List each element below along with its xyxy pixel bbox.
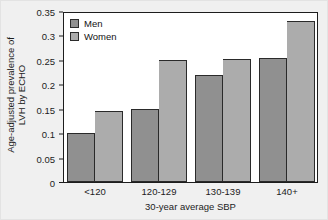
x-axis-title: 30-year average SBP: [63, 201, 318, 212]
y-tick-label: 0.15: [37, 104, 56, 115]
x-tick-label: 120-129: [130, 186, 188, 200]
plot-area: Men Women: [63, 12, 318, 183]
bar-women[interactable]: [159, 60, 187, 182]
bar-women[interactable]: [287, 21, 315, 182]
y-tick-label: 0.05: [37, 153, 56, 164]
y-axis-title-line-2: LVH by ECHO: [16, 37, 27, 153]
bar-women[interactable]: [95, 111, 123, 182]
x-tick-label: 130-139: [194, 186, 252, 200]
y-tick-label: 0.3: [42, 31, 55, 42]
bar-men[interactable]: [259, 58, 287, 182]
y-tick-label: 0.2: [42, 80, 55, 91]
y-axis-tick-labels: 00.050.10.150.20.250.30.35: [27, 12, 59, 183]
bar-men[interactable]: [131, 109, 159, 182]
y-tick-label: 0.25: [37, 55, 56, 66]
y-tick-label: 0.35: [37, 7, 56, 18]
bar-men[interactable]: [195, 75, 223, 182]
bar-series-container: [64, 13, 317, 182]
bar-group: [131, 13, 187, 182]
x-tick-label: <120: [66, 186, 124, 200]
bar-chart-figure: Age-adjusted prevalence of LVH by ECHO 0…: [0, 0, 328, 220]
bar-men[interactable]: [67, 133, 95, 182]
bar-group: [67, 13, 123, 182]
y-axis-title-line-1: Age-adjusted prevalence of: [5, 37, 16, 153]
y-tick-label: 0: [50, 178, 55, 189]
x-axis-tick-labels: <120120-129130-139140+: [63, 186, 318, 200]
bar-group: [195, 13, 251, 182]
y-tick-label: 0.1: [42, 129, 55, 140]
bar-group: [259, 13, 315, 182]
bar-women[interactable]: [223, 59, 251, 182]
x-tick-label: 140+: [258, 186, 316, 200]
